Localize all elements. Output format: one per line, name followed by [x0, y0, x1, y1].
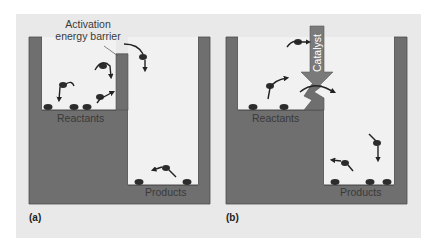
energy-diagram: Activation energy barrier Reactants Prod… [0, 0, 436, 248]
reactants-label-b: Reactants [252, 112, 299, 124]
panel-a: Activation energy barrier Reactants Prod… [29, 18, 210, 223]
panel-b: Catalyst Reactants Products (b) [226, 26, 407, 223]
product-well [128, 37, 198, 185]
activation-barrier [116, 54, 128, 110]
panel-label-b: (b) [226, 212, 239, 223]
reactants-label-a: Reactants [57, 112, 104, 124]
annotation-line-2: energy barrier [55, 30, 121, 42]
product-well-b [324, 37, 394, 185]
panel-label-a: (a) [29, 212, 41, 223]
products-label-a: Products [145, 186, 186, 198]
annotation-line-1: Activation [65, 18, 111, 30]
catalyst-label: Catalyst [311, 34, 323, 72]
products-label-b: Products [340, 186, 381, 198]
reactant-well [42, 37, 116, 110]
